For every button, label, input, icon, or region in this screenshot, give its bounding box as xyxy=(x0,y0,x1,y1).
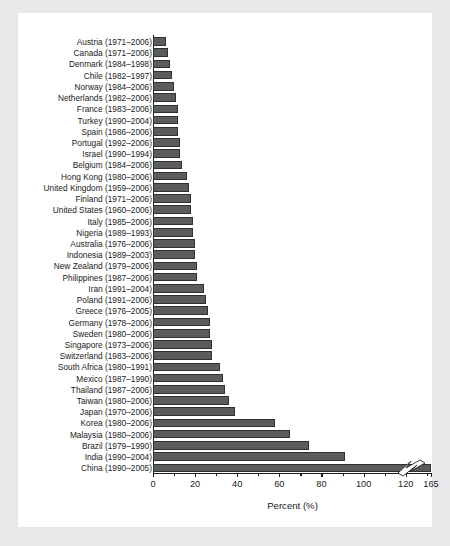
bar xyxy=(153,374,223,383)
bar xyxy=(153,306,208,315)
x-tick-label: 120 xyxy=(398,479,413,489)
x-axis-title: Percent (%) xyxy=(153,500,432,511)
bar xyxy=(153,351,212,360)
x-tick xyxy=(153,473,154,477)
bar xyxy=(153,183,189,192)
category-label: China (1990–2005) xyxy=(0,462,152,474)
bar xyxy=(153,239,195,248)
x-tick-label: 80 xyxy=(316,479,326,489)
bar xyxy=(153,71,172,80)
bar xyxy=(153,441,309,450)
x-tick xyxy=(364,473,365,477)
bar xyxy=(153,329,210,338)
bar xyxy=(153,217,193,226)
bar xyxy=(153,105,178,114)
x-tick-minor xyxy=(343,473,344,476)
bar xyxy=(153,407,235,416)
x-tick-label: 100 xyxy=(356,479,371,489)
x-tick-label: 20 xyxy=(190,479,200,489)
x-tick xyxy=(406,473,407,477)
bar xyxy=(153,385,225,394)
x-tick-minor xyxy=(258,473,259,476)
x-tick-minor xyxy=(427,473,428,476)
bar xyxy=(153,284,204,293)
bar xyxy=(153,430,290,439)
bar xyxy=(153,396,229,405)
x-tick-label: 60 xyxy=(274,479,284,489)
bar xyxy=(153,295,206,304)
bar xyxy=(153,464,431,473)
bar xyxy=(153,194,191,203)
x-tick xyxy=(431,473,432,477)
figure-panel: Austria (1971–2006)Canada (1971–2006)Den… xyxy=(18,13,432,527)
x-tick-minor xyxy=(300,473,301,476)
bar xyxy=(153,127,178,136)
bar xyxy=(153,250,195,259)
bar xyxy=(153,419,275,428)
x-tick xyxy=(279,473,280,477)
bar xyxy=(153,138,180,147)
x-tick xyxy=(321,473,322,477)
x-tick-label: 0 xyxy=(150,479,155,489)
bar xyxy=(153,273,197,282)
bar xyxy=(153,116,178,125)
bar xyxy=(153,205,191,214)
bar-chart: Austria (1971–2006)Canada (1971–2006)Den… xyxy=(18,13,432,527)
bar xyxy=(153,228,193,237)
bar xyxy=(153,60,170,69)
bar xyxy=(153,93,176,102)
bar xyxy=(153,161,182,170)
x-tick-minor xyxy=(385,473,386,476)
x-tick-label: 40 xyxy=(232,479,242,489)
bar xyxy=(153,82,174,91)
bar xyxy=(153,48,168,57)
bar xyxy=(153,172,187,181)
bar xyxy=(153,340,212,349)
bar xyxy=(153,452,345,461)
x-tick xyxy=(237,473,238,477)
bar xyxy=(153,318,210,327)
x-tick-label: 165 xyxy=(423,479,438,489)
bar xyxy=(153,363,220,372)
x-tick xyxy=(195,473,196,477)
bar xyxy=(153,37,166,46)
bar xyxy=(153,149,180,158)
x-tick-minor xyxy=(216,473,217,476)
bar xyxy=(153,262,197,271)
x-tick-minor xyxy=(174,473,175,476)
